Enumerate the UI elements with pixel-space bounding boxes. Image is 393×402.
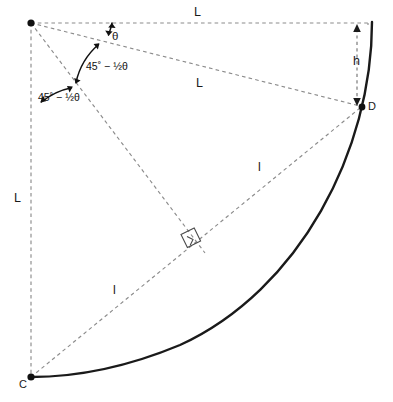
label-angle-theta: θ bbox=[112, 31, 118, 43]
height-arrowhead-top bbox=[353, 24, 361, 32]
label-chord-upper: l bbox=[258, 161, 261, 174]
diagram-canvas: L L L l l h θ 45˚ − ½θ 45˚ − ½θ D C bbox=[0, 0, 393, 402]
line-chord-apex-to-d bbox=[31, 23, 360, 106]
right-angle-inner-tick bbox=[187, 236, 193, 245]
label-side-left: L bbox=[14, 192, 21, 205]
label-angle-half-2: 45˚ − ½θ bbox=[38, 92, 80, 103]
label-chord-lower: l bbox=[113, 284, 116, 297]
geometry-diagram-svg bbox=[0, 0, 393, 402]
line-angle-bisector bbox=[31, 23, 205, 253]
label-height: h bbox=[353, 55, 360, 68]
label-chord-long: L bbox=[196, 77, 203, 90]
point-c-dot bbox=[27, 373, 34, 380]
point-d-dot bbox=[359, 104, 366, 111]
label-point-c: C bbox=[19, 379, 27, 390]
angle-arc-theta-arrow-top bbox=[108, 23, 115, 28]
label-point-d: D bbox=[368, 101, 376, 112]
right-angle-marker bbox=[181, 228, 201, 248]
label-angle-half-1: 45˚ − ½θ bbox=[86, 61, 128, 72]
label-side-top: L bbox=[194, 6, 201, 19]
apex-point-dot bbox=[27, 19, 34, 26]
